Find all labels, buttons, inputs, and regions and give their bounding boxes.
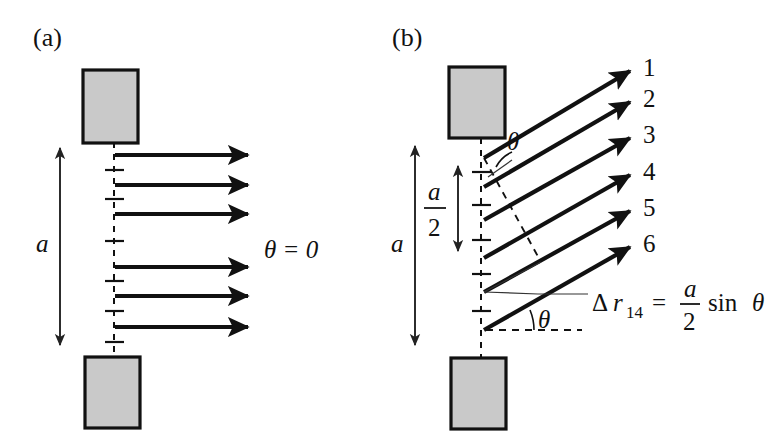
sin-symbol: sin — [708, 289, 738, 316]
panel-b-theta-top-label: θ — [507, 128, 519, 155]
panel-b-ray-label-3: 3 — [643, 121, 656, 148]
panel-a-angle-label: θ = 0 — [264, 236, 319, 263]
panel-b-path-difference-formula: Δ r 14 = a 2 sin θ — [592, 275, 764, 335]
panel-b-dimension-a-label: a — [391, 230, 404, 257]
r-subscript: 14 — [626, 303, 644, 322]
panel-b-half-a-numerator: a — [428, 178, 441, 205]
panel-b-theta-bottom-label: θ — [538, 306, 550, 333]
panel-b-ray-label-6: 6 — [643, 230, 656, 257]
panel-a-label: (a) — [33, 23, 62, 52]
panel-b-ray-6 — [484, 247, 630, 330]
panel-b-ray-4 — [484, 175, 630, 258]
panel-b-ray-3 — [484, 138, 630, 220]
panel-b: (b) — [391, 23, 764, 429]
panel-b-ray-label-5: 5 — [643, 194, 656, 221]
panel-b-upper-barrier — [449, 67, 505, 138]
diffraction-figure: (a) — [0, 0, 778, 446]
panel-b-half-a-denominator: 2 — [428, 214, 441, 241]
formula-numerator: a — [684, 275, 697, 302]
panel-b-ray-label-1: 1 — [643, 54, 656, 81]
panel-b-lower-barrier — [451, 358, 506, 429]
formula-theta: θ — [752, 289, 764, 316]
delta-symbol: Δ — [592, 289, 608, 316]
panel-a-lower-barrier — [85, 357, 140, 428]
panel-a-dimension-a-label: a — [36, 230, 49, 257]
panel-a-upper-barrier — [83, 70, 138, 143]
panel-b-ray-label-2: 2 — [643, 85, 656, 112]
panel-b-angle-arc-bottom — [530, 310, 534, 330]
figure-canvas: (a) — [0, 0, 778, 446]
panel-b-ray-label-4: 4 — [643, 158, 656, 185]
panel-b-label: (b) — [392, 23, 422, 52]
panel-a-rays — [115, 155, 248, 327]
panel-b-ray-labels: 1 2 3 4 5 6 — [643, 54, 656, 257]
equals-symbol: = — [652, 289, 666, 316]
r-symbol: r — [613, 289, 623, 316]
panel-a: (a) — [33, 23, 319, 428]
formula-denominator: 2 — [683, 308, 696, 335]
